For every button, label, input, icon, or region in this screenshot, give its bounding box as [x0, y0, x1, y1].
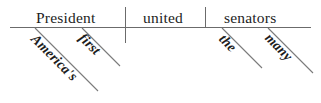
subject-word: President — [36, 10, 96, 26]
object-word: senators — [224, 10, 276, 26]
verb-word: united — [143, 10, 183, 26]
sentence-diagram: President united senators America's firs… — [0, 0, 321, 103]
